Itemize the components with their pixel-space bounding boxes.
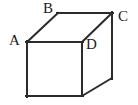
edge-bottom-right-diagonal [82,78,112,96]
vertex-label-a: A [9,33,20,48]
edge-top-left-diagonal [27,13,58,42]
vertex-label-d: D [86,37,97,52]
vertex-label-c: C [118,9,128,24]
vertex-label-b: B [43,1,53,16]
cube-figure: A B C D [0,0,138,105]
